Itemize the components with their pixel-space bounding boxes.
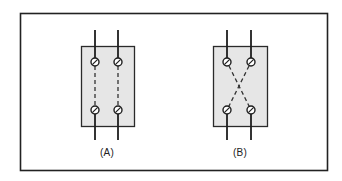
panel-b-crossed-connection	[214, 30, 268, 140]
screw-icon	[247, 106, 255, 114]
screw-icon	[223, 58, 231, 66]
terminal-block-b	[214, 47, 268, 127]
screw-icon	[247, 58, 255, 66]
panel-a-label: (A)	[87, 147, 127, 158]
screw-icon	[91, 58, 99, 66]
screw-icon	[114, 58, 122, 66]
panel-a-straight-connection	[82, 30, 135, 140]
diagram-frame	[21, 14, 328, 171]
screw-icon	[114, 106, 122, 114]
panel-b-label: (B)	[220, 147, 260, 158]
screw-icon	[91, 106, 99, 114]
terminal-block-diagram	[0, 0, 342, 181]
terminal-block-a	[82, 47, 135, 127]
screw-icon	[223, 106, 231, 114]
